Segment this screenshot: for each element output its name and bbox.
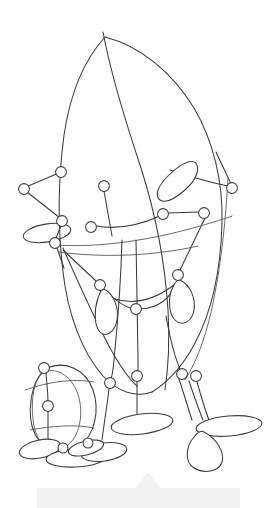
joint-right-shoulder[interactable] <box>227 183 238 194</box>
joint-left-ankle-inner[interactable] <box>132 371 143 382</box>
watermark-group <box>37 472 240 508</box>
hip-belt-line <box>112 285 174 302</box>
joint-right-hip-joint[interactable] <box>173 270 184 281</box>
joint-small-foot-joint-a[interactable] <box>58 443 68 453</box>
right-hand-blob <box>157 161 197 201</box>
shoulder-brace-line <box>216 152 231 184</box>
joint-right-knee[interactable] <box>177 369 188 380</box>
small-figure-neck-link <box>46 373 48 401</box>
legs-group <box>102 240 209 440</box>
watermark-band <box>37 488 240 508</box>
right-thigh-blob <box>169 280 194 323</box>
joint-left-elbow-upper[interactable] <box>56 167 67 178</box>
watermark-peak-icon <box>135 472 161 489</box>
joint-neck-joint[interactable] <box>99 181 110 192</box>
joint-chest-joint[interactable] <box>86 222 97 233</box>
small-figure-inner-oval <box>32 370 80 450</box>
joint-mid-spine-joint[interactable] <box>158 209 169 220</box>
waist-sweep-line <box>56 216 232 246</box>
left-knee-drop-line <box>102 389 109 440</box>
right-shin-line <box>189 381 203 420</box>
joint-layer <box>19 167 238 453</box>
joint-small-foot-joint-b[interactable] <box>83 438 93 448</box>
joint-right-ankle[interactable] <box>191 371 202 382</box>
lower-waist-sweep <box>58 246 198 255</box>
joint-left-wrist[interactable] <box>50 238 61 249</box>
collar-line-left <box>104 191 112 236</box>
drawing-canvas <box>0 0 277 508</box>
joint-right-rib-joint[interactable] <box>199 208 210 219</box>
joint-left-hip-joint[interactable] <box>95 280 106 291</box>
small-figure-chord-lower <box>30 426 94 430</box>
joint-left-knee[interactable] <box>105 378 116 389</box>
chest-to-shoulder-line <box>168 212 199 213</box>
line-drawing <box>0 0 277 508</box>
joint-small-head-joint[interactable] <box>39 363 50 374</box>
chest-span-line <box>96 216 160 227</box>
left-thigh-blob <box>95 289 117 335</box>
joint-small-body-joint[interactable] <box>43 401 54 412</box>
right-shin-line-inner <box>197 382 209 420</box>
left-foot-ellipse <box>110 410 174 437</box>
joint-left-hand-outer[interactable] <box>19 184 30 195</box>
right-arm-group <box>157 161 197 201</box>
left-forearm-segment <box>27 192 60 218</box>
feet-group <box>110 410 263 471</box>
joint-pelvis-joint[interactable] <box>131 304 142 315</box>
right-foot-blob <box>187 431 222 471</box>
joint-left-elbow-lower[interactable] <box>57 216 68 227</box>
